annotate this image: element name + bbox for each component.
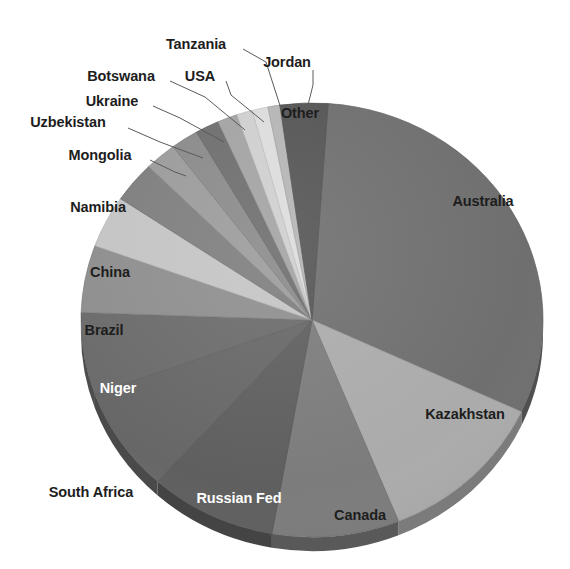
pie-slice-label: USA <box>185 69 215 84</box>
pie-slice-label: Niger <box>100 381 137 396</box>
pie-slice-label: Kazakhstan <box>425 407 505 422</box>
pie-slice-label: Botswana <box>87 69 155 84</box>
pie-slice-label: Russian Fed <box>196 491 281 506</box>
pie-slice-label: Tanzania <box>166 37 226 52</box>
pie-slice-label: Uzbekistan <box>30 115 106 130</box>
pie-slice-label: China <box>90 265 130 280</box>
pie-slice-label: Australia <box>452 194 513 209</box>
pie-slice-label: Mongolia <box>69 148 132 163</box>
pie-slice-label: Brazil <box>85 323 124 338</box>
pie-slice-label: Ukraine <box>86 94 139 109</box>
pie-slice-label: Namibia <box>70 200 126 215</box>
pie-slice-label: Other <box>281 106 319 121</box>
pie-slice-label: South Africa <box>49 485 133 500</box>
pie-slice-label: Jordan <box>263 55 311 70</box>
pie-chart-figure: TanzaniaJordanBotswanaUSAUkraineUzbekist… <box>0 0 570 569</box>
pie-slice-label: Canada <box>334 508 386 523</box>
